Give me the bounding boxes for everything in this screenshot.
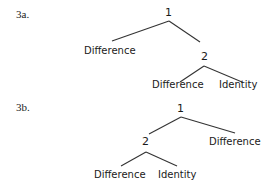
tree-3a-subtree-root: 2 [201,51,208,63]
tree-3a-subtree-right-leaf: Identity [219,79,257,91]
tree-3a-root-node: 1 [165,7,172,19]
tree-3b-subtree-right-leaf: Identity [158,169,196,181]
figure-label-3b: 3b. [16,101,30,113]
tree-3b-right-leaf: Difference [209,136,261,148]
tree-edges [0,0,279,191]
tree-3a-subtree-left-leaf: Difference [152,79,204,91]
tree-3b-root-node: 1 [177,103,184,115]
tree-3b-subtree-root: 2 [142,136,149,148]
tree-3b-subtree-left-leaf: Difference [94,169,146,181]
tree-3a-left-leaf: Difference [84,45,136,57]
figure-label-3a: 3a. [16,8,29,20]
